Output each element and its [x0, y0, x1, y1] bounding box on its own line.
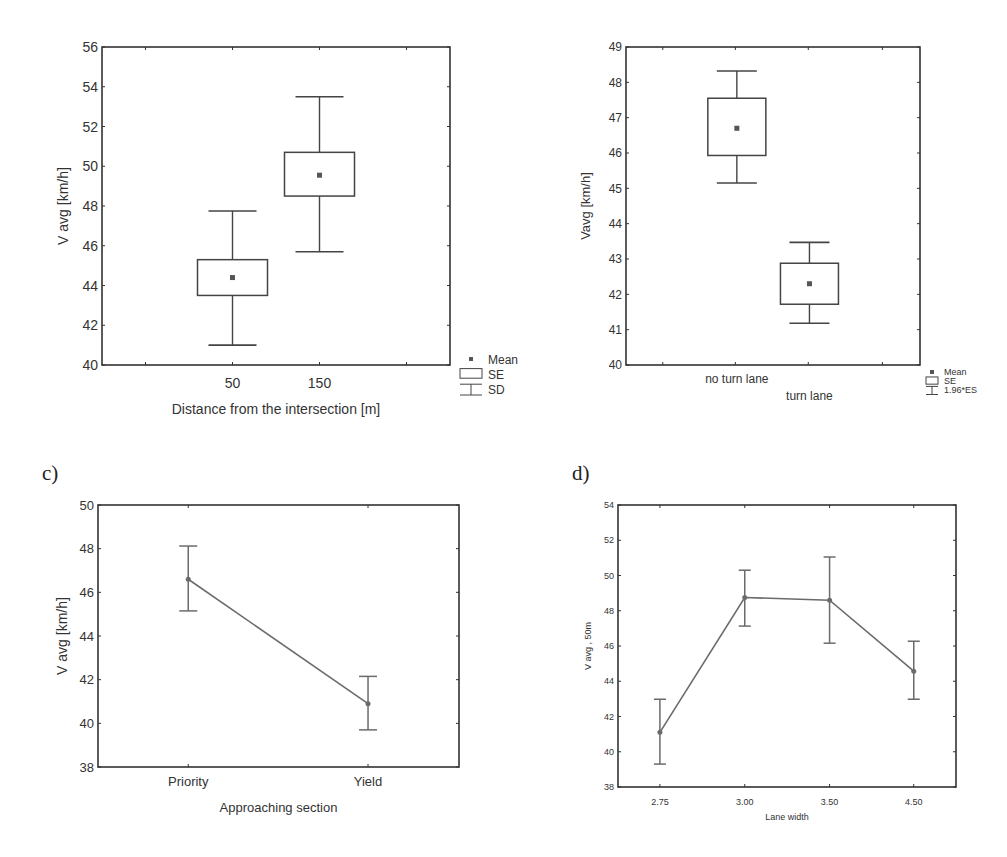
data-point — [827, 598, 832, 603]
y-tick-label: 38 — [604, 782, 614, 792]
plot-frame — [102, 47, 450, 365]
legend-mean-icon — [930, 370, 934, 374]
y-tick-label: 46 — [604, 641, 614, 651]
y-tick-label: 54 — [82, 79, 98, 95]
legend-se-icon — [926, 377, 938, 384]
y-tick-label: 44 — [80, 629, 94, 644]
error-bar-0 — [654, 699, 666, 764]
x-category-label: 50 — [225, 375, 241, 391]
mean-marker — [230, 275, 235, 280]
y-tick-label: 44 — [604, 676, 614, 686]
legend-mean-icon — [469, 357, 473, 361]
y-tick-label: 52 — [82, 119, 98, 135]
y-tick-label: 42 — [609, 288, 623, 302]
chart-d: 3840424446485052542.753.003.504.50Lane w… — [583, 500, 956, 822]
box-0 — [708, 71, 766, 183]
y-tick-label: 47 — [609, 111, 623, 125]
mean-marker — [807, 281, 812, 286]
y-tick-label: 45 — [609, 182, 623, 196]
legend-sd-label: SD — [488, 383, 505, 397]
data-point — [657, 730, 662, 735]
y-tick-label: 46 — [609, 146, 623, 160]
box-0 — [198, 211, 268, 345]
y-tick-label: 42 — [80, 672, 94, 687]
chart-a: 40424446485052545650150Distance from the… — [55, 39, 518, 417]
y-tick-label: 40 — [604, 747, 614, 757]
series-line — [188, 579, 368, 703]
legend-se-label: SE — [488, 368, 504, 382]
plot-frame — [98, 505, 459, 767]
box-1 — [285, 97, 355, 252]
x-category-label: turn lane — [786, 389, 833, 403]
data-point — [366, 701, 371, 706]
y-axis-label: V avg [km/h] — [54, 597, 70, 675]
y-tick-label: 40 — [609, 358, 623, 372]
x-category-label: no turn lane — [705, 372, 769, 386]
y-tick-label: 44 — [609, 217, 623, 231]
x-category-label: Priority — [168, 774, 209, 789]
y-tick-label: 48 — [80, 541, 94, 556]
x-category-label: 150 — [308, 375, 332, 391]
y-tick-label: 52 — [604, 535, 614, 545]
y-tick-label: 50 — [604, 571, 614, 581]
chart-b: 40414243444546474849no turn laneturn lan… — [578, 40, 977, 403]
y-tick-label: 49 — [609, 40, 623, 54]
mean-marker — [317, 173, 322, 178]
plot-frame — [618, 505, 956, 787]
legend: MeanSE1.96*ES — [926, 367, 977, 395]
y-tick-label: 43 — [609, 252, 623, 266]
x-axis-label: Approaching section — [220, 800, 338, 815]
y-tick-label: 46 — [80, 585, 94, 600]
y-tick-label: 48 — [604, 606, 614, 616]
y-tick-label: 48 — [609, 76, 623, 90]
legend: MeanSESD — [460, 353, 518, 397]
error-bar-0 — [179, 546, 197, 611]
y-tick-label: 42 — [82, 317, 98, 333]
y-axis-label: V avg [km/h] — [55, 167, 71, 245]
data-point — [911, 669, 916, 674]
box-1 — [780, 242, 838, 323]
data-point — [186, 577, 191, 582]
y-tick-label: 40 — [80, 716, 94, 731]
x-axis-label: Lane width — [765, 812, 809, 822]
error-bar-1 — [359, 676, 377, 729]
x-category-label: 2.75 — [651, 797, 669, 807]
y-tick-label: 46 — [82, 238, 98, 254]
y-tick-label: 38 — [80, 760, 94, 775]
y-tick-label: 50 — [82, 158, 98, 174]
y-tick-label: 41 — [609, 323, 623, 337]
series-line — [660, 598, 914, 733]
x-category-label: 3.00 — [736, 797, 754, 807]
error-bar-3 — [908, 641, 920, 699]
mean-marker — [734, 126, 739, 131]
y-axis-label: V avg , 50m — [583, 622, 593, 670]
legend-mean-label: Mean — [488, 353, 518, 367]
legend-sd-label: 1.96*ES — [944, 385, 977, 395]
x-category-label: Yield — [354, 774, 382, 789]
y-axis-label: Vavg [km/h] — [578, 172, 593, 240]
data-point — [742, 595, 747, 600]
y-tick-label: 54 — [604, 500, 614, 510]
y-tick-label: 40 — [82, 357, 98, 373]
plot-frame — [626, 47, 920, 365]
x-axis-label: Distance from the intersection [m] — [172, 401, 381, 417]
y-tick-label: 48 — [82, 198, 98, 214]
y-tick-label: 56 — [82, 39, 98, 55]
x-category-label: 4.50 — [905, 797, 923, 807]
y-tick-label: 50 — [80, 498, 94, 513]
y-tick-label: 44 — [82, 278, 98, 294]
legend-se-icon — [460, 369, 482, 379]
x-category-label: 3.50 — [821, 797, 839, 807]
y-tick-label: 42 — [604, 712, 614, 722]
chart-c: 38404244464850PriorityYieldApproaching s… — [54, 498, 459, 815]
figure-canvas: 40424446485052545650150Distance from the… — [0, 0, 1007, 857]
